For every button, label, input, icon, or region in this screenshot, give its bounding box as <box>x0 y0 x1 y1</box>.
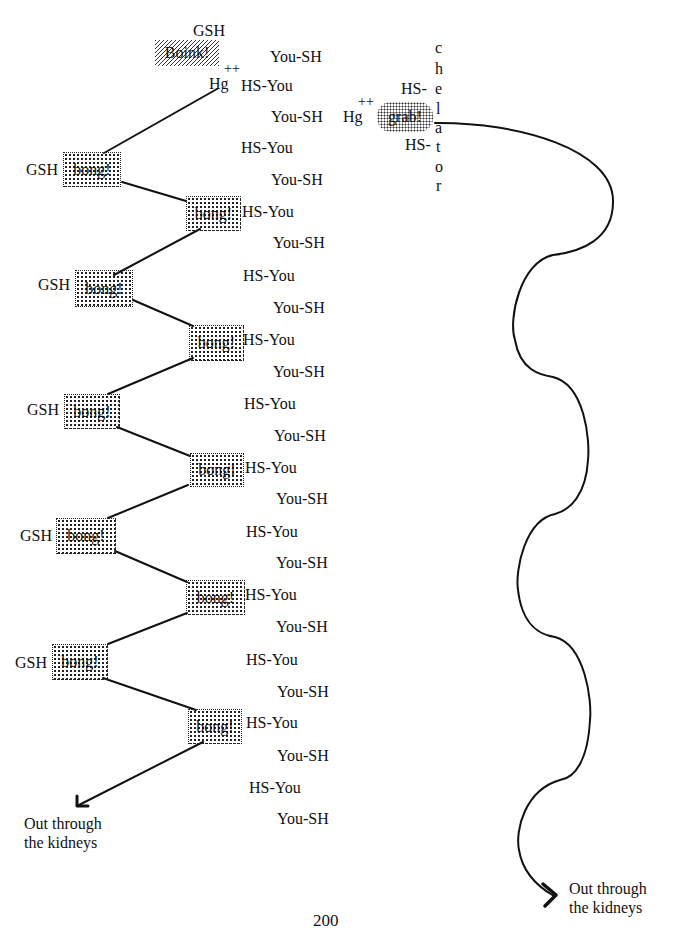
zigzag-segment <box>108 358 193 394</box>
chelator-letter: l <box>436 100 440 118</box>
bong-label: bong! <box>196 718 233 735</box>
hs-you-label: HS-You <box>243 267 295 285</box>
you-sh-label: You-SH <box>276 554 328 572</box>
bong-box-right: bong! <box>188 709 242 744</box>
bong-box-left: bong! <box>56 518 116 554</box>
hg-label-chelator: Hg <box>343 108 363 126</box>
you-sh-label: You-SH <box>274 427 326 445</box>
exit-left-line1: Out through <box>24 815 102 833</box>
bong-label: bong! <box>197 589 234 606</box>
hs-you-label: HS-You <box>246 714 298 732</box>
hs-you-label: HS-You <box>243 331 295 349</box>
hg-label-top: Hg <box>209 75 229 93</box>
hs-you-label: HS-You <box>244 395 296 413</box>
gsh-label: GSH <box>38 276 70 294</box>
bong-box-right: bong! <box>189 325 244 361</box>
zigzag-segment <box>114 229 200 275</box>
you-sh-label: You-SH <box>277 747 329 765</box>
hs-you-label: HS-You <box>241 77 293 95</box>
exit-right-line1: Out through <box>569 880 647 898</box>
zigzag-segment <box>122 182 186 201</box>
hs-you-label: HS-You <box>241 139 293 157</box>
gsh-label: GSH <box>20 527 52 545</box>
bong-label: bong! <box>198 461 235 478</box>
gsh-label-top: GSH <box>193 22 225 40</box>
hs-you-label: HS-You <box>249 779 301 797</box>
arrowhead-right <box>543 884 556 906</box>
chelator-letter: h <box>435 60 443 78</box>
you-sh-label: You-SH <box>271 108 323 126</box>
bong-label: bong! <box>61 653 98 670</box>
hs-you-label: HS-You <box>242 203 294 221</box>
bong-label: bong! <box>198 334 235 351</box>
bong-box-right: bong! <box>186 580 245 615</box>
gsh-label: GSH <box>26 161 58 179</box>
boink-box: Boink! <box>155 40 219 66</box>
bong-box-right: bong! <box>190 453 244 487</box>
you-sh-label: You-SH <box>276 618 328 636</box>
hg-charge-top: ++ <box>224 62 240 76</box>
you-sh-label: You-SH <box>271 171 323 189</box>
bong-label: bong! <box>195 205 232 222</box>
chelator-curve <box>435 123 613 896</box>
exit-left-line2: the kidneys <box>24 834 97 852</box>
page-number: 200 <box>313 912 339 930</box>
you-sh-label: You-SH <box>273 234 325 252</box>
bong-label: bong! <box>73 161 110 178</box>
chelator-letter: a <box>435 119 442 137</box>
boink-label: Boink! <box>165 44 209 61</box>
zigzag-segment <box>108 485 188 518</box>
bong-box-left: bong! <box>63 152 121 187</box>
chelator-letter: c <box>435 39 442 57</box>
hs-top-label: HS- <box>401 80 427 98</box>
zigzag-segment <box>115 551 187 582</box>
you-sh-label: You-SH <box>273 363 325 381</box>
you-sh-label: You-SH <box>277 683 329 701</box>
you-sh-label: You-SH <box>276 490 328 508</box>
you-sh-label: You-SH <box>270 48 322 66</box>
zigzag-segment <box>103 678 196 710</box>
gsh-label: GSH <box>15 654 47 672</box>
hs-you-label: HS-You <box>245 459 297 477</box>
bong-label: bong! <box>85 280 122 297</box>
zigzag-segment <box>133 300 193 326</box>
hs-you-label: HS-You <box>245 586 297 604</box>
zigzag-segment <box>77 742 203 806</box>
gsh-label: GSH <box>27 401 59 419</box>
grab-box: grab! <box>377 102 433 132</box>
chelator-letter: o <box>435 158 443 176</box>
grab-label: grab! <box>388 108 422 125</box>
hs-you-label: HS-You <box>246 651 298 669</box>
zigzag-segment <box>104 89 217 153</box>
you-sh-label: You-SH <box>277 810 329 828</box>
chelator-letter: t <box>436 138 440 156</box>
chelator-letter: r <box>436 177 441 195</box>
you-sh-label: You-SH <box>273 299 325 317</box>
zigzag-segment <box>108 613 187 644</box>
bong-label: bong! <box>73 403 110 420</box>
diagram-lines <box>0 0 678 936</box>
bong-box-right: bong! <box>186 196 241 231</box>
hs-bottom-label: HS- <box>405 136 431 154</box>
bong-box-left: bong! <box>64 394 120 429</box>
bong-box-left: bong! <box>52 644 108 680</box>
bong-box-left: bong! <box>75 270 133 307</box>
zigzag-segment <box>117 427 190 456</box>
hs-you-label: HS-You <box>246 523 298 541</box>
bong-label: bong! <box>67 527 104 544</box>
exit-right-line2: the kidneys <box>569 899 642 917</box>
chelator-letter: e <box>435 80 442 98</box>
hg-charge-chelator: ++ <box>358 95 374 109</box>
